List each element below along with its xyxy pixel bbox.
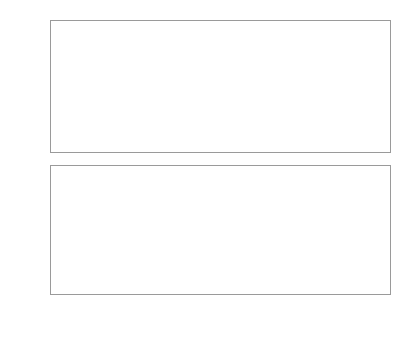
temperature-panel <box>51 166 391 295</box>
figure <box>0 0 408 338</box>
temperature-frame <box>51 166 391 295</box>
congestion-panel <box>51 21 391 153</box>
congestion-frame <box>51 21 391 153</box>
